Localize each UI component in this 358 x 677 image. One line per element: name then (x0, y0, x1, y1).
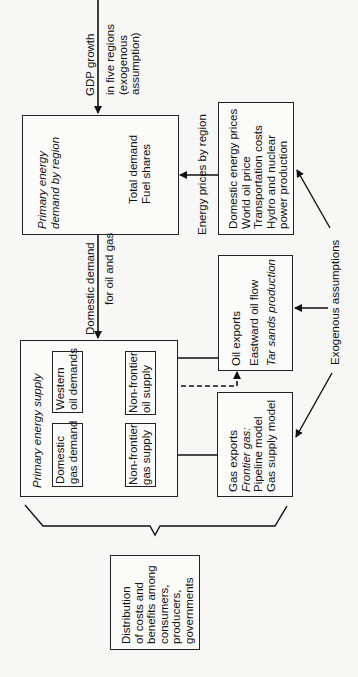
exogenous-to-gas-exports-arrow (296, 373, 332, 437)
domestic-gas-demand-box: Domestic gas demand (52, 423, 83, 487)
primary-demand-title: Primary energy demand by region (36, 137, 61, 229)
primary-energy-demand-box: Primary energy demand by region Total de… (22, 115, 179, 235)
distribution-text: Distribution of costs and benefits among… (120, 565, 195, 644)
non-frontier-gas-supply-box: Non-frontier gas supply (125, 423, 156, 487)
distribution-output-box: Distribution of costs and benefits among… (110, 555, 200, 650)
western-oil-demands-box: Western oil demands (52, 351, 83, 413)
gdp-growth-label: GDP growth (84, 34, 97, 96)
oil-exports-box: Oil exports Eastward oil flow Tar sands … (218, 255, 293, 371)
gas-exports-box: Gas exports Frontier gas: Pipeline model… (217, 392, 293, 497)
exogenous-assumptions-label: Exogenous assumptions (329, 240, 342, 365)
gdp-regions-label: in five regions (exogenous assumption) (104, 24, 142, 95)
non-frontier-oil-supply-box: Non-frontier oil supply (125, 351, 156, 415)
primary-demand-body: Total demand Fuel shares (127, 135, 152, 204)
energy-prices-label: Energy prices by region (196, 114, 209, 235)
gas-exports-text: Gas exports Frontier gas: Pipeline model… (227, 400, 277, 492)
exogenous-to-prices-arrow (297, 170, 330, 228)
primary-energy-supply-box: Primary energy supply Western oil demand… (20, 340, 178, 497)
prices-box-text: Domestic energy prices World oil price T… (227, 109, 290, 229)
primary-supply-title: Primary energy supply (31, 374, 44, 488)
domestic-demand-label: Domestic demand (84, 242, 97, 335)
domestic-demand-label-2: for oil and gas (103, 233, 116, 305)
brace (25, 505, 287, 535)
oil-exports-text: Oil exports Eastward oil flow Tar sands … (230, 259, 278, 366)
prices-box: Domestic energy prices World oil price T… (218, 102, 294, 235)
